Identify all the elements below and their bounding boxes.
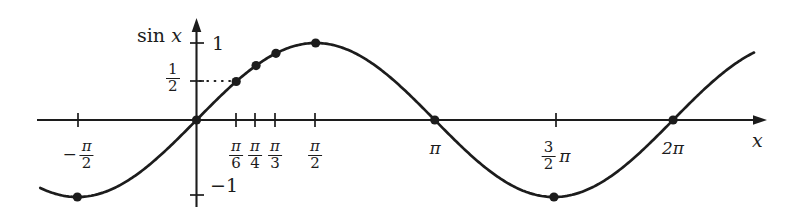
- fraction-numerator: π: [268, 139, 282, 155]
- plot-canvas: [0, 0, 796, 219]
- fraction-denominator: 2: [80, 155, 94, 172]
- data-point: [271, 49, 280, 58]
- x-tick-label-pi: π: [429, 140, 440, 157]
- x-tick-label-negative-pi-over-2: − π 2: [62, 139, 93, 172]
- data-point: [232, 77, 241, 86]
- data-point: [251, 61, 260, 70]
- pi-symbol: π: [557, 148, 570, 165]
- y-tick-label-half: 1 2: [166, 62, 180, 95]
- y-tick-label-one: 1: [212, 34, 224, 53]
- sine-function-figure: sin x x 1 −1 1 2 − π 2 π 6 π 4: [0, 0, 796, 219]
- fraction-denominator: 2: [308, 155, 322, 172]
- fraction-denominator: 4: [248, 155, 262, 172]
- data-point: [430, 115, 439, 124]
- fraction-denominator: 2: [166, 78, 180, 95]
- minus-sign: −: [62, 146, 77, 163]
- data-point: [549, 192, 558, 201]
- y-tick-label-negative-one: −1: [210, 176, 238, 195]
- x-tick-label-two-pi: 2π: [662, 140, 684, 157]
- fraction-numerator: π: [80, 139, 94, 155]
- y-axis-label-variable: x: [171, 24, 182, 46]
- data-point: [192, 115, 201, 124]
- data-point: [311, 38, 320, 47]
- y-axis: [192, 18, 202, 207]
- fraction-numerator: 3: [542, 140, 556, 156]
- y-axis-label-sin: sin: [137, 24, 165, 46]
- fraction-denominator: 6: [229, 155, 243, 172]
- y-axis-label: sin x: [137, 26, 182, 45]
- fraction-numerator: π: [248, 139, 262, 155]
- data-point: [73, 192, 82, 201]
- data-point: [668, 115, 677, 124]
- fraction-numerator: π: [229, 139, 243, 155]
- x-axis: [37, 115, 767, 125]
- x-tick-label-pi-over-6: π 6: [229, 139, 243, 172]
- x-tick-label-pi-over-2: π 2: [308, 139, 322, 172]
- x-axis-label: x: [752, 131, 763, 150]
- x-tick-label-pi-over-4: π 4: [248, 139, 262, 172]
- fraction-numerator: π: [308, 139, 322, 155]
- x-tick-label-three-pi-over-2: 3 2 π: [542, 139, 571, 173]
- fraction-numerator: 1: [166, 62, 180, 78]
- fraction-denominator: 3: [268, 155, 282, 172]
- fraction-denominator: 2: [542, 156, 556, 173]
- x-tick-label-pi-over-3: π 3: [268, 139, 282, 172]
